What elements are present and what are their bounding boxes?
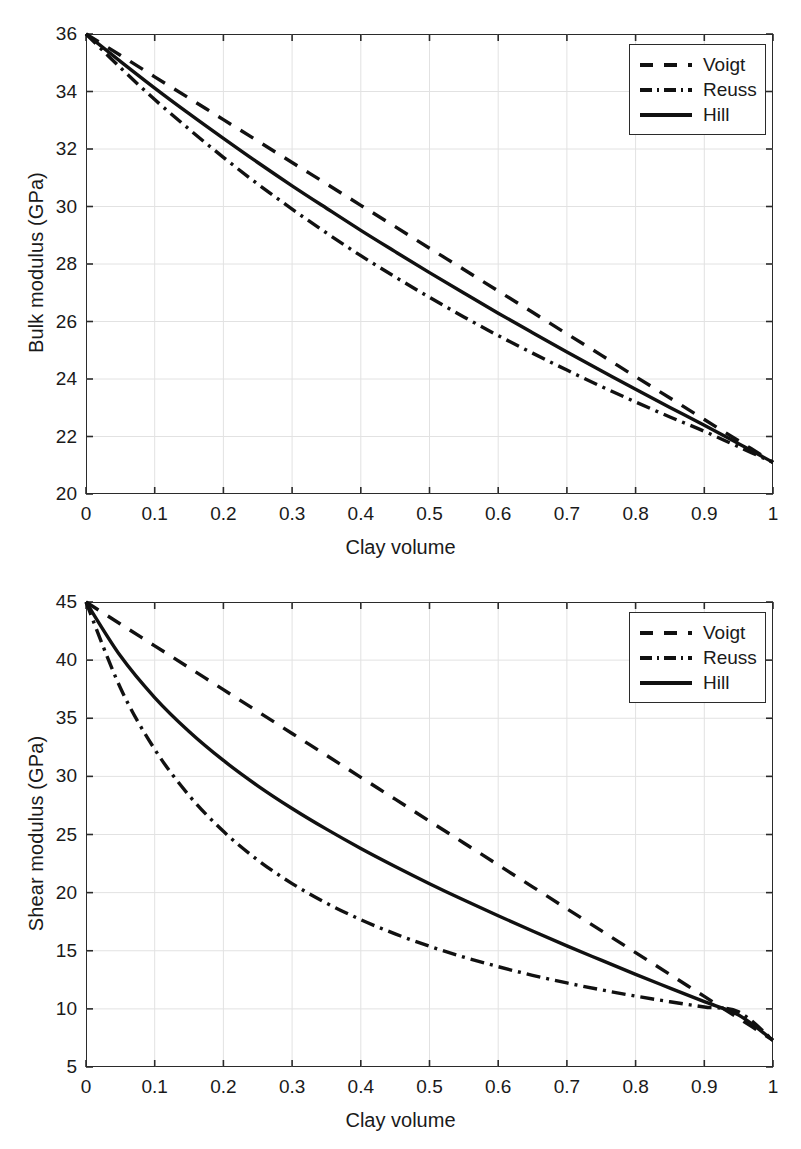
y-tick-label: 45 [56, 591, 77, 613]
y-tick-label: 26 [56, 311, 77, 333]
x-tick-label: 0.1 [141, 1076, 167, 1098]
chart-panel-shear-modulus: Shear modulus (GPa) 00.10.20.30.40.50.60… [0, 570, 801, 1149]
x-tick-label: 0.9 [691, 1076, 717, 1098]
y-tick-label: 20 [56, 882, 77, 904]
legend-key-reuss-dashdot-icon [638, 83, 694, 97]
x-tick-label: 0 [81, 1076, 92, 1098]
x-tick-label: 0.7 [554, 503, 580, 525]
legend-key-hill-solid-icon [638, 676, 694, 690]
legend-label-voigt: Voigt [703, 623, 745, 642]
legend-label-reuss: Reuss [703, 648, 757, 667]
x-tick-label: 0.1 [141, 503, 167, 525]
legend-key-voigt-dashed-icon [638, 58, 694, 72]
x-tick-label: 0.8 [622, 1076, 648, 1098]
x-tick-label: 0.2 [210, 503, 236, 525]
y-tick-label: 32 [56, 138, 77, 160]
y-tick-label: 35 [56, 707, 77, 729]
legend-key-reuss-dashdot-icon [638, 651, 694, 665]
y-tick-label: 30 [56, 196, 77, 218]
x-tick-label: 0.6 [485, 503, 511, 525]
x-tick-label: 0.3 [279, 503, 305, 525]
y-tick-label: 15 [56, 940, 77, 962]
x-tick-label: 0.7 [554, 1076, 580, 1098]
y-tick-label: 20 [56, 483, 77, 505]
legend-item-voigt: Voigt [638, 52, 755, 77]
legend-item-reuss: Reuss [638, 645, 755, 670]
x-tick-label: 0.8 [622, 503, 648, 525]
y-tick-label: 36 [56, 23, 77, 45]
legend-label-reuss: Reuss [703, 80, 757, 99]
y-tick-label: 30 [56, 765, 77, 787]
x-tick-label: 0 [81, 503, 92, 525]
legend-item-hill: Hill [638, 670, 755, 695]
legend-item-hill: Hill [638, 102, 755, 127]
legend-key-hill-solid-icon [638, 108, 694, 122]
x-tick-label: 0.9 [691, 503, 717, 525]
y-tick-label: 34 [56, 81, 77, 103]
y-tick-label: 10 [56, 998, 77, 1020]
y-tick-label: 28 [56, 253, 77, 275]
legend-label-voigt: Voigt [703, 55, 745, 74]
legend-label-hill: Hill [703, 673, 729, 692]
x-tick-label: 0.5 [416, 503, 442, 525]
legend-bulk: Voigt Reuss Hill [629, 44, 766, 135]
x-axis-label-bulk: Clay volume [0, 536, 801, 559]
y-tick-label: 25 [56, 824, 77, 846]
chart-panel-bulk-modulus: Bulk modulus (GPa) 00.10.20.30.40.50.60.… [0, 0, 801, 570]
x-tick-label: 0.3 [279, 1076, 305, 1098]
legend-key-voigt-dashed-icon [638, 626, 694, 640]
legend-shear: Voigt Reuss Hill [629, 612, 766, 703]
y-tick-label: 40 [56, 649, 77, 671]
figure-root: Bulk modulus (GPa) 00.10.20.30.40.50.60.… [0, 0, 801, 1149]
x-tick-label: 0.5 [416, 1076, 442, 1098]
x-axis-label-shear: Clay volume [0, 1109, 801, 1132]
x-tick-label: 1 [768, 1076, 779, 1098]
x-tick-label: 0.4 [348, 503, 374, 525]
y-tick-label: 24 [56, 368, 77, 390]
legend-item-reuss: Reuss [638, 77, 755, 102]
legend-label-hill: Hill [703, 105, 729, 124]
x-tick-label: 0.6 [485, 1076, 511, 1098]
x-tick-label: 0.2 [210, 1076, 236, 1098]
x-tick-label: 0.4 [348, 1076, 374, 1098]
y-tick-label: 5 [66, 1056, 77, 1078]
y-tick-label: 22 [56, 426, 77, 448]
legend-item-voigt: Voigt [638, 620, 755, 645]
x-tick-label: 1 [768, 503, 779, 525]
